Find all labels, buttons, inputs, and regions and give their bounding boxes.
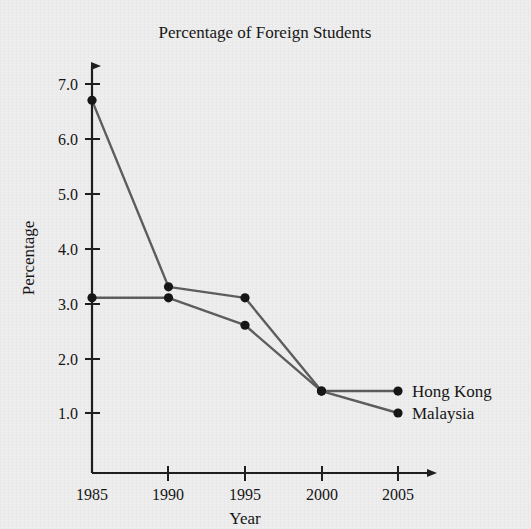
data-point [87, 293, 96, 302]
y-tick-label-7: 7.0 [58, 76, 78, 93]
y-tick-label-1: 1.0 [58, 405, 78, 422]
x-tick-label-2005: 2005 [382, 486, 414, 503]
data-point [240, 293, 249, 302]
y-tick-label-2: 2.0 [58, 351, 78, 368]
data-point [240, 321, 249, 330]
series-line-malaysia [92, 298, 398, 413]
y-tick-label-4: 4.0 [58, 241, 78, 258]
series-line-hong-kong [92, 100, 398, 391]
legend-label-hong-kong: Hong Kong [412, 382, 492, 401]
x-axis-title: Year [229, 509, 261, 528]
x-tick-label-2000: 2000 [306, 486, 338, 503]
data-point [317, 386, 326, 395]
data-point [164, 293, 173, 302]
x-tick-label-1995: 1995 [229, 486, 261, 503]
y-tick-label-3: 3.0 [58, 296, 78, 313]
x-axis-tick-labels: 1985 1990 1995 2000 2005 [76, 486, 414, 503]
chart-title: Percentage of Foreign Students [159, 23, 372, 42]
y-tick-label-6: 6.0 [58, 131, 78, 148]
legend-label-malaysia: Malaysia [412, 404, 475, 423]
series-markers-malaysia [87, 293, 402, 417]
x-tick-label-1990: 1990 [152, 486, 184, 503]
y-tick-label-5: 5.0 [58, 186, 78, 203]
chart-container: Percentage of Foreign Students 7.0 6.0 5… [0, 0, 531, 529]
data-point [393, 386, 402, 395]
y-axis-title: Percentage [19, 221, 38, 296]
x-tick-label-1985: 1985 [76, 486, 108, 503]
y-axis-tick-labels: 7.0 6.0 5.0 4.0 3.0 2.0 1.0 [58, 76, 78, 422]
data-point [164, 282, 173, 291]
series-markers-hong-kong [87, 96, 402, 396]
data-point [87, 96, 96, 105]
data-point [393, 408, 402, 417]
line-chart: Percentage of Foreign Students 7.0 6.0 5… [0, 0, 531, 529]
